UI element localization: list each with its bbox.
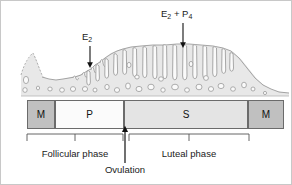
bracket-label-follicular-text: Follicular phase	[42, 148, 109, 159]
bracket-luteal	[129, 134, 249, 141]
ovulation-label-text: Ovulation	[105, 164, 145, 175]
ovulation-label: Ovulation	[93, 165, 157, 175]
bracket-label-luteal: Luteal phase	[141, 149, 237, 159]
bracket-label-luteal-text: Luteal phase	[162, 148, 216, 159]
bracket-label-follicular: Follicular phase	[27, 149, 123, 159]
bracket-follicular	[27, 134, 123, 141]
endometrial-cycle-figure: E2 E2 + P4 M P S M	[0, 0, 292, 185]
